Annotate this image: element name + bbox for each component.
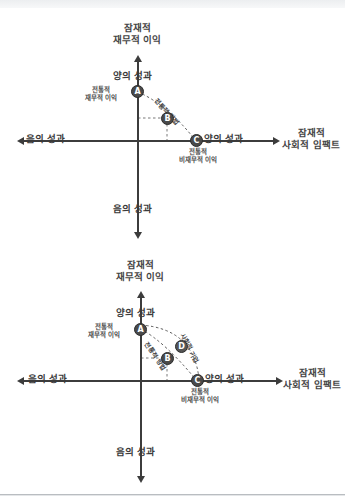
chart-1-y-axis-title-line1: 잠재적 <box>97 22 177 34</box>
chart-2-point-d[interactable]: D <box>175 340 188 353</box>
chart-2-y-axis-title-line2: 재무적 이익 <box>100 271 180 283</box>
chart-2-point-c-letter: C <box>195 376 201 385</box>
chart-2-point-a-annotation-line2: 재무적 이익 <box>73 331 135 339</box>
chart-2-x-axis-title: 잠재적 사회적 임팩트 <box>280 367 344 391</box>
chart-1-point-a-annotation: 전통적 재무적 이익 <box>70 86 132 103</box>
chart-2-point-a[interactable]: A <box>134 323 147 336</box>
chart-2-point-c-annotation: 전통적 비재무적 이익 <box>162 388 238 405</box>
chart-1-x-axis-title-line2: 사회적 임팩트 <box>278 139 344 151</box>
chart-1-point-a-letter: A <box>134 87 140 96</box>
chart-1: 잠재적 재무적 이익 잠재적 사회적 임팩트 양의 성과 음의 성과 음의 성과… <box>0 0 345 251</box>
chart-1-y-positive-label: 양의 성과 <box>113 70 152 82</box>
chart-2-x-axis-left-arrow <box>17 377 24 385</box>
chart-1-point-c[interactable]: C <box>190 134 203 147</box>
chart-1-x-axis-left-arrow <box>17 137 24 145</box>
chart-2-point-d-letter: D <box>178 342 185 351</box>
chart-1-y-axis-up-arrow <box>134 55 142 62</box>
chart-1-point-b[interactable]: B <box>161 112 174 125</box>
chart-2-y-axis-title-line1: 잠재적 <box>100 259 180 271</box>
chart-1-point-a-annotation-line2: 재무적 이익 <box>70 94 132 102</box>
chart-2-point-b[interactable]: B <box>161 352 174 365</box>
chart-1-y-axis-title: 잠재적 재무적 이익 <box>97 22 177 46</box>
figure-page: 잠재적 재무적 이익 잠재적 사회적 임팩트 양의 성과 음의 성과 음의 성과… <box>0 0 345 502</box>
chart-2-y-negative-label: 음의 성과 <box>116 446 155 458</box>
chart-2-x-axis-title-line1: 잠재적 <box>280 367 344 379</box>
chart-2-x-axis-title-line2: 사회적 임팩트 <box>280 379 344 391</box>
chart-2-y-axis-down-arrow <box>137 476 145 483</box>
chart-1-x-axis-title: 잠재적 사회적 임팩트 <box>278 127 344 151</box>
chart-2-y-positive-label: 양의 성과 <box>116 307 155 319</box>
chart-1-y-negative-label: 음의 성과 <box>113 203 152 215</box>
chart-2-y-axis-up-arrow <box>137 291 145 298</box>
chart-2-point-c-annotation-line2: 비재무적 이익 <box>162 396 238 404</box>
chart-1-point-b-letter: B <box>164 114 170 123</box>
chart-2-point-b-letter: B <box>164 354 170 363</box>
chart-1-point-c-annotation-line2: 비재무적 이익 <box>160 156 236 164</box>
chart-2-y-axis-title: 잠재적 재무적 이익 <box>100 259 180 283</box>
chart-1-point-a[interactable]: A <box>131 85 144 98</box>
chart-1-point-c-annotation: 전통적 비재무적 이익 <box>160 148 236 165</box>
chart-2-point-a-letter: A <box>137 325 143 334</box>
chart-2-point-c[interactable]: C <box>191 374 204 387</box>
chart-2: 잠재적 재무적 이익 잠재적 사회적 임팩트 양의 성과 음의 성과 음의 성과… <box>0 251 345 502</box>
chart-2-point-a-annotation: 전통적 재무적 이익 <box>73 323 135 340</box>
chart-1-x-axis-title-line1: 잠재적 <box>278 127 344 139</box>
chart-1-x-positive-label: 양의 성과 <box>204 133 243 145</box>
chart-1-point-c-letter: C <box>194 136 200 145</box>
chart-2-x-negative-label: 음의 성과 <box>28 373 67 385</box>
chart-1-y-axis-down-arrow <box>134 232 142 239</box>
chart-1-y-axis-title-line2: 재무적 이익 <box>97 34 177 46</box>
chart-1-x-negative-label: 음의 성과 <box>26 133 65 145</box>
chart-2-x-positive-label: 양의 성과 <box>205 373 244 385</box>
